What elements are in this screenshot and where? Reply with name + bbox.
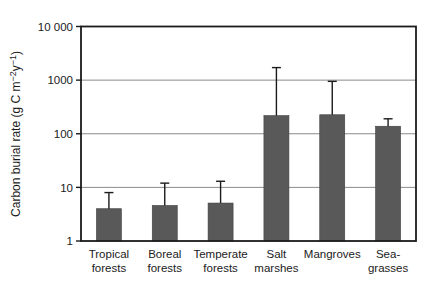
carbon-burial-rate-bar-chart: 110100100010 000TropicalforestsBorealfor… — [0, 0, 438, 286]
y-tick-label-1: 1 — [67, 235, 73, 247]
bar-sea-grasses — [376, 126, 401, 241]
category-label-boreal-forests-line-1: Boreal — [148, 248, 181, 260]
y-tick-label-1000: 1000 — [47, 74, 73, 86]
category-label-salt-marshes-line-1: Salt — [267, 248, 288, 260]
y-axis-label-superscript: −2 — [8, 71, 18, 81]
bar-boreal-forests — [152, 205, 177, 241]
category-label-mangroves: Mangroves — [304, 248, 361, 260]
category-label-salt-marshes-line-2: marshes — [254, 262, 298, 274]
category-label-salt-marshes: Saltmarshes — [254, 248, 298, 274]
bar-temperate-forests — [208, 203, 233, 241]
bar-salt-marshes — [264, 116, 289, 241]
y-tick-label-10000: 10 000 — [38, 21, 73, 33]
category-label-sea-grasses: Sea-grasses — [368, 248, 409, 274]
category-label-mangroves-line-1: Mangroves — [304, 248, 361, 260]
y-axis-label-text: ) — [9, 51, 23, 55]
category-label-tropical-forests: Tropicalforests — [89, 248, 129, 274]
bar-mangroves — [320, 115, 345, 241]
category-label-temperate-forests-line-1: Temperate — [193, 248, 247, 260]
y-tick-label-10: 10 — [60, 182, 73, 194]
category-label-tropical-forests-line-1: Tropical — [89, 248, 129, 260]
x-category-labels: TropicalforestsBorealforestsTemperatefor… — [89, 248, 409, 274]
category-label-temperate-forests: Temperateforests — [193, 248, 247, 274]
category-label-tropical-forests-line-2: forests — [92, 262, 127, 274]
y-axis-tick-labels: 110100100010 000 — [38, 21, 73, 248]
carbon-burial-rate-figure: 110100100010 000TropicalforestsBorealfor… — [0, 0, 438, 286]
y-axis-label-text: Carbon burial rate (g C m — [9, 82, 23, 217]
bar-tropical-forests — [96, 209, 121, 241]
category-label-temperate-forests-line-2: forests — [203, 262, 238, 274]
category-label-boreal-forests: Borealforests — [147, 248, 182, 274]
y-tick-label-100: 100 — [54, 128, 73, 140]
category-label-sea-grasses-line-2: grasses — [368, 262, 409, 274]
gridlines — [81, 80, 416, 187]
y-axis-label: Carbon burial rate (g C m−2y−1) — [8, 51, 24, 217]
category-label-sea-grasses-line-1: Sea- — [376, 248, 400, 260]
category-label-boreal-forests-line-2: forests — [147, 262, 182, 274]
y-axis-label-superscript: −1 — [8, 55, 18, 65]
